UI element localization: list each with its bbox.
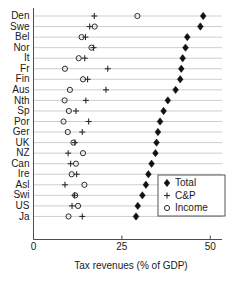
y-axis-label-swi: Swi [13, 189, 29, 200]
y-axis-label-aus: Aus [12, 84, 29, 95]
marker-total-swi [139, 192, 145, 199]
x-axis-title: Tax revenues (% of GDP) [74, 260, 187, 271]
marker-total-ja [133, 213, 139, 220]
marker-total-ire [146, 171, 152, 178]
marker-cp-sp [73, 108, 79, 114]
marker-cp-fin [85, 76, 91, 82]
x-tick-label-0: 0 [31, 241, 37, 252]
y-axis-label-ja: Ja [19, 211, 30, 222]
scatter-chart: DenSweBelNorItFrFinAusNthSpPorGerUKNZCan… [0, 0, 229, 283]
y-axis-label-can: Can [11, 158, 29, 169]
legend-label: C&P [175, 190, 196, 201]
marker-cp-den [91, 13, 97, 19]
marker-total-uk [154, 139, 160, 146]
marker-cp-asl [62, 182, 68, 188]
x-tick-label-50: 50 [205, 241, 217, 252]
marker-total-sp [161, 107, 167, 114]
chart-legend: TotalC&PIncome [158, 175, 225, 216]
y-axis-label-us: US [16, 200, 30, 211]
marker-total-us [135, 202, 141, 209]
x-axis-group [34, 236, 223, 240]
y-axis-label-den: Den [11, 10, 29, 21]
marker-total-nz [153, 149, 159, 156]
marker-total-bel [184, 33, 190, 40]
chart-container: DenSweBelNorItFrFinAusNthSpPorGerUKNZCan… [0, 0, 229, 283]
marker-cp-it [82, 55, 88, 61]
marker-total-it [180, 55, 186, 62]
marker-cp-nz [65, 150, 71, 156]
y-axis-label-nor: Nor [13, 42, 30, 53]
marker-cp-fr [105, 66, 111, 72]
marker-cp-ger [79, 129, 85, 135]
marker-cp-ja [79, 213, 85, 219]
x-tick-label-25: 25 [116, 241, 128, 252]
legend-label: Income [175, 202, 208, 213]
marker-total-fr [178, 65, 184, 72]
marker-total-asl [143, 181, 149, 188]
marker-total-ger [155, 128, 161, 135]
marker-cp-us [69, 203, 75, 209]
y-axis-label-sp: Sp [17, 105, 30, 116]
legend-label: Total [175, 177, 196, 188]
y-axis-label-ire: Ire [18, 168, 30, 179]
marker-total-swe [197, 23, 203, 30]
y-axis-label-fr: Fr [20, 63, 30, 74]
marker-total-nth [165, 97, 171, 104]
marker-cp-ire [74, 171, 80, 177]
y-axis-label-fin: Fin [16, 73, 30, 84]
y-axis-label-nz: NZ [16, 147, 29, 158]
marker-cp-swe [87, 24, 93, 30]
marker-total-fin [177, 76, 183, 83]
marker-total-por [157, 118, 163, 125]
y-axis-label-bel: Bel [15, 31, 29, 42]
x-tick-labels-group: 02550 [31, 241, 217, 252]
marker-total-can [149, 160, 155, 167]
marker-cp-nth [83, 97, 89, 103]
y-axis-label-nth: Nth [14, 95, 30, 106]
y-axis-label-uk: UK [16, 137, 30, 148]
marker-total-den [200, 12, 206, 19]
marker-cp-can [68, 161, 74, 167]
marker-total-nor [183, 44, 189, 51]
marker-total-aus [173, 86, 179, 93]
y-axis-label-ger: Ger [13, 126, 30, 137]
y-axis-label-it: It [24, 52, 30, 63]
marker-cp-por [86, 119, 92, 125]
y-axis-label-por: Por [14, 116, 30, 127]
y-axis-labels-group: DenSweBelNorItFrFinAusNthSpPorGerUKNZCan… [10, 10, 30, 221]
y-axis-label-asl: Asl [16, 179, 30, 190]
y-axis-label-swe: Swe [10, 21, 30, 32]
marker-cp-aus [103, 87, 109, 93]
